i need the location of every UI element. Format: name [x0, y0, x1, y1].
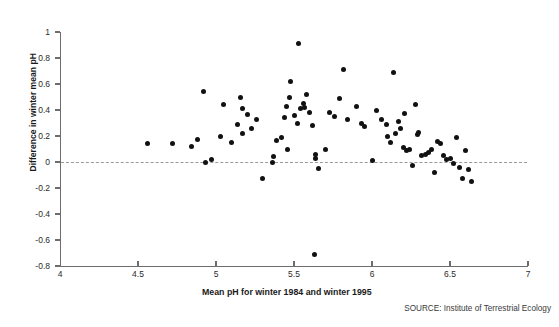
data-point	[354, 104, 359, 109]
data-point	[407, 147, 412, 152]
x-tick-label: 6.5	[430, 270, 470, 279]
x-tick-label: 5.5	[274, 270, 314, 279]
y-tick	[55, 57, 60, 58]
x-tick-label: 7	[508, 270, 548, 279]
y-tick	[55, 213, 60, 214]
data-point	[254, 117, 259, 122]
scatter-plot-figure: -0.8-0.6-0.4-0.200.20.40.60.81 44.555.56…	[0, 0, 559, 327]
data-point	[284, 104, 289, 109]
x-tick	[371, 261, 372, 266]
data-point	[170, 141, 175, 146]
source-note: SOURCE: Institute of Terrestrial Ecology	[404, 305, 551, 313]
data-point	[245, 112, 250, 117]
y-tick	[55, 187, 60, 188]
x-tick-label: 5	[196, 270, 236, 279]
data-point	[429, 147, 434, 152]
data-point	[203, 160, 208, 165]
data-point	[337, 96, 342, 101]
data-point	[454, 135, 459, 140]
data-point	[292, 113, 297, 118]
data-point	[285, 147, 290, 152]
x-tick	[293, 261, 294, 266]
y-tick-label: -0.8	[16, 262, 50, 271]
data-point	[385, 134, 390, 139]
data-point	[432, 170, 437, 175]
data-point	[451, 161, 456, 166]
y-tick	[55, 265, 60, 266]
data-point	[463, 148, 468, 153]
x-tick-label: 4.5	[118, 270, 158, 279]
data-point	[240, 131, 245, 136]
data-point	[345, 117, 350, 122]
data-point	[393, 131, 398, 136]
data-point	[374, 108, 379, 113]
data-point	[221, 102, 226, 107]
data-point	[312, 252, 317, 257]
y-tick	[55, 109, 60, 110]
zero-reference-line	[61, 162, 527, 163]
x-tick-label: 6	[352, 270, 392, 279]
x-axis-title: Mean pH for winter 1984 and winter 1995	[202, 288, 372, 297]
data-point	[448, 156, 453, 161]
data-point	[370, 158, 375, 163]
data-point	[218, 134, 223, 139]
data-point	[379, 117, 384, 122]
x-tick	[215, 261, 216, 266]
data-point	[287, 95, 292, 100]
x-tick-label: 4	[40, 270, 80, 279]
y-tick	[55, 83, 60, 84]
data-point	[209, 157, 214, 162]
data-point	[398, 126, 403, 131]
y-tick-label: -0.4	[16, 210, 50, 219]
data-point	[295, 121, 300, 126]
y-tick	[55, 31, 60, 32]
plot-area	[60, 32, 528, 266]
data-point	[145, 141, 150, 146]
y-tick-label: -0.6	[16, 236, 50, 245]
y-axis-title: Difference in winter mean pH	[29, 32, 38, 192]
data-point	[416, 130, 421, 135]
y-axis-line	[60, 32, 61, 266]
y-tick	[55, 135, 60, 136]
y-tick	[55, 161, 60, 162]
data-point	[270, 160, 275, 165]
data-point	[304, 92, 309, 97]
data-point	[195, 137, 200, 142]
data-point	[457, 165, 462, 170]
x-tick	[449, 261, 450, 266]
y-tick	[55, 239, 60, 240]
data-point	[384, 122, 389, 127]
x-tick	[137, 261, 138, 266]
data-point	[323, 147, 328, 152]
x-tick	[527, 261, 528, 266]
data-point	[189, 144, 194, 149]
